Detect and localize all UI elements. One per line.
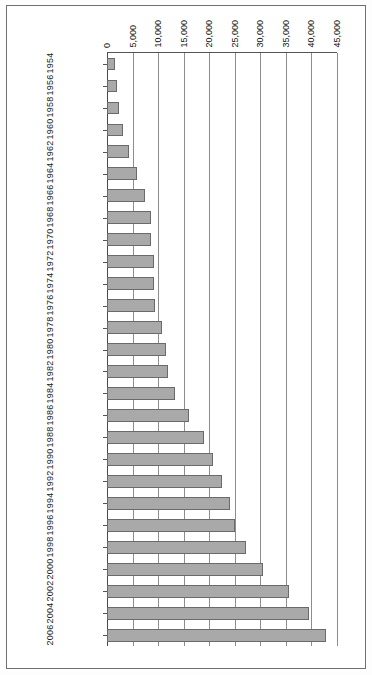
bar-slot — [107, 74, 337, 96]
category-axis-labels: 1954195619581960196219641966196819701972… — [65, 52, 107, 646]
bar-slot — [107, 184, 337, 206]
chart-figure: 45,00040,00035,00030,00025,00020,00015,0… — [0, 0, 372, 675]
category-tick-label: 2006 — [45, 624, 55, 645]
bar-slot — [107, 162, 337, 184]
bar-slot — [107, 360, 337, 382]
bar — [107, 189, 145, 202]
bar — [107, 518, 235, 531]
category-tick-label: 1986 — [45, 404, 55, 425]
chart-plot-stage: 45,00040,00035,00030,00025,00020,00015,0… — [21, 18, 351, 658]
bar-slot — [107, 228, 337, 250]
bar-slot — [107, 53, 337, 75]
bar-slot — [107, 118, 337, 140]
plot-area — [107, 52, 337, 646]
bar-slot — [107, 250, 337, 272]
category-tick-label: 1980 — [45, 338, 55, 359]
category-tick-label: 1990 — [45, 448, 55, 469]
category-tick-label: 1970 — [45, 228, 55, 249]
category-tick-label: 2004 — [45, 602, 55, 623]
category-tick-label: 1994 — [45, 492, 55, 513]
category-tick-label: 1982 — [45, 360, 55, 381]
bar — [107, 145, 129, 158]
category-tick-label: 1998 — [45, 536, 55, 557]
bar-slot — [107, 514, 337, 536]
bar — [107, 606, 309, 619]
bar-series — [107, 53, 337, 646]
bar — [107, 321, 162, 334]
bar — [107, 540, 246, 553]
bar — [107, 167, 137, 180]
bar-slot — [107, 536, 337, 558]
category-tick-label: 1954 — [45, 52, 55, 73]
bar — [107, 343, 166, 356]
bar-slot — [107, 96, 337, 118]
value-tick-label: 15,000 — [179, 20, 189, 48]
bar-slot — [107, 316, 337, 338]
bar — [107, 453, 213, 466]
category-tick-label: 1964 — [45, 162, 55, 183]
bar — [107, 57, 115, 70]
bar-slot — [107, 206, 337, 228]
category-tick-label: 1966 — [45, 184, 55, 205]
bar-slot — [107, 624, 337, 646]
bar — [107, 79, 117, 92]
bar-slot — [107, 140, 337, 162]
bar — [107, 233, 151, 246]
bar-slot — [107, 580, 337, 602]
category-tick-label: 1984 — [45, 382, 55, 403]
value-tick-label: 35,000 — [281, 20, 291, 48]
bar-slot — [107, 558, 337, 580]
category-tick-label: 1978 — [45, 316, 55, 337]
bar — [107, 496, 230, 509]
bar-slot — [107, 602, 337, 624]
category-tick-label: 1956 — [45, 74, 55, 95]
bar-slot — [107, 426, 337, 448]
category-tick-label: 1988 — [45, 426, 55, 447]
bar — [107, 562, 263, 575]
bar — [107, 365, 168, 378]
bar — [107, 101, 119, 114]
category-tick-label: 1974 — [45, 272, 55, 293]
bar — [107, 387, 175, 400]
bar — [107, 211, 151, 224]
bar-slot — [107, 470, 337, 492]
bar-slot — [107, 338, 337, 360]
gridline — [337, 53, 338, 646]
category-tick-label: 1958 — [45, 96, 55, 117]
bar — [107, 431, 204, 444]
value-tick-label: 40,000 — [306, 20, 316, 48]
category-tick-label: 1996 — [45, 514, 55, 535]
value-tick-label: 20,000 — [204, 20, 214, 48]
category-tick-label: 1960 — [45, 118, 55, 139]
bar-slot — [107, 448, 337, 470]
category-tick-label: 1976 — [45, 294, 55, 315]
bar — [107, 123, 123, 136]
value-tick-label: 10,000 — [153, 20, 163, 48]
category-tick-label: 1992 — [45, 470, 55, 491]
value-tick-label: 45,000 — [332, 20, 342, 48]
bar-slot — [107, 382, 337, 404]
bar — [107, 475, 222, 488]
category-tick-label: 2000 — [45, 558, 55, 579]
category-tick-label: 1972 — [45, 250, 55, 271]
value-tick-label: 0 — [102, 42, 112, 47]
bar — [107, 628, 326, 641]
bar — [107, 584, 289, 597]
bar-slot — [107, 404, 337, 426]
bar — [107, 409, 189, 422]
category-tick-label: 2002 — [45, 580, 55, 601]
bar-slot — [107, 492, 337, 514]
category-tick-label: 1968 — [45, 206, 55, 227]
bar — [107, 255, 154, 268]
value-tick-label: 5,000 — [128, 25, 138, 48]
plot-region — [107, 52, 337, 646]
bar — [107, 277, 154, 290]
category-tick-label: 1962 — [45, 140, 55, 161]
bar-slot — [107, 272, 337, 294]
value-tick-label: 30,000 — [255, 20, 265, 48]
bar-slot — [107, 294, 337, 316]
value-axis-labels: 45,00040,00035,00030,00025,00020,00015,0… — [107, 18, 337, 52]
value-tick-label: 25,000 — [230, 20, 240, 48]
bar — [107, 299, 155, 312]
